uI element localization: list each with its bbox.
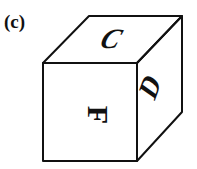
right-face-letter: D xyxy=(134,68,167,105)
front-face-letter: F xyxy=(82,106,115,124)
top-face-letter: C xyxy=(96,23,127,54)
cube-diagram: C F D xyxy=(0,0,197,169)
